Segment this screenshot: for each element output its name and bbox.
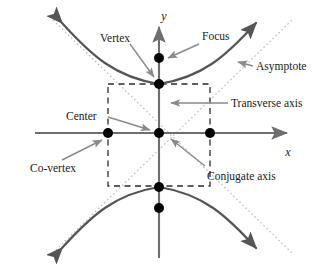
co-vertex-leader-line <box>62 140 102 160</box>
co-vertex-right-point <box>205 128 215 138</box>
hyperbola-diagram: x y <box>0 0 323 267</box>
vertex-label: Vertex <box>100 32 130 44</box>
center-label: Center <box>66 110 97 122</box>
focus-leader-line <box>168 44 199 58</box>
vertex-lower-point <box>154 182 164 192</box>
focus-upper-point <box>154 53 164 63</box>
co-vertex-label: Co-vertex <box>30 162 76 174</box>
transverse-axis-label: Transverse axis <box>231 97 303 109</box>
text-label-group: Vertex Focus Asymptote Transverse axis C… <box>30 30 306 183</box>
vertex-leader-line <box>130 44 154 77</box>
y-axis-label: y <box>160 9 167 23</box>
conjugate-axis-leader-line <box>171 139 205 166</box>
vertex-upper-point <box>154 79 164 89</box>
center-point <box>154 128 164 138</box>
diagram-canvas: x y <box>0 0 323 267</box>
asymptote-leader-line <box>238 62 253 66</box>
focus-label: Focus <box>202 30 230 42</box>
center-leader-line <box>108 117 150 130</box>
asymptote-group <box>53 20 292 253</box>
asymptote-label: Asymptote <box>256 60 306 73</box>
x-axis-label: x <box>284 145 291 159</box>
conjugate-axis-label: Conjugate axis <box>207 170 276 183</box>
focus-lower-point <box>154 203 164 213</box>
co-vertex-left-point <box>103 128 113 138</box>
